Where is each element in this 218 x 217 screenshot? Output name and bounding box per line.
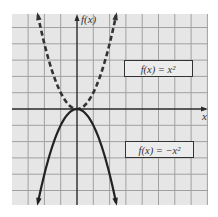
y-axis-label: f(x)	[81, 13, 97, 26]
lower-equation-box: f(x) = −x²	[126, 142, 194, 158]
x-axis-label: x	[201, 110, 207, 122]
lower-equation-label: f(x) = −x²	[139, 145, 182, 157]
parabola-chart: f(x) x f(x) = x² f(x) = −x²	[0, 0, 218, 217]
upper-equation-box: f(x) = x²	[125, 61, 193, 77]
upper-equation-label: f(x) = x²	[141, 64, 177, 76]
